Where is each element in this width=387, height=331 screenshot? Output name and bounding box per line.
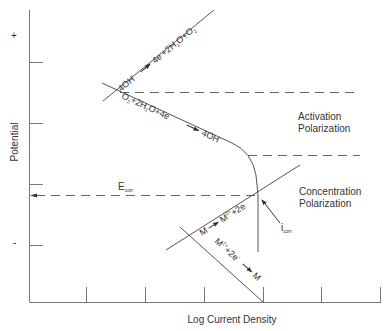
svg-text:O2+2H2O+4e-: O2+2H2O+4e- xyxy=(120,90,174,123)
e-corr-arrowhead xyxy=(30,194,37,198)
i-corr-label: icorr xyxy=(281,222,292,234)
oxygen-cathodic-reaction: O2+2H2O+4e- 4OH- xyxy=(120,90,224,146)
svg-text:4OH-: 4OH- xyxy=(200,127,223,146)
x-axis-label: Log Current Density xyxy=(188,314,277,325)
concentration-polarization-label: Concentration Polarization xyxy=(299,186,364,209)
e-corr-label: Ecorr xyxy=(118,181,134,193)
svg-text:M: M xyxy=(251,270,263,282)
y-minus-label: - xyxy=(13,237,16,248)
svg-text:M2++2e-: M2++2e- xyxy=(213,235,243,264)
activation-polarization-label: Activation Polarization xyxy=(298,111,350,134)
oxygen-cathodic-curve xyxy=(102,83,258,252)
y-plus-label: + xyxy=(11,30,17,41)
svg-text:M: M xyxy=(198,225,210,237)
svg-text:4e-+2H2O+O2: 4e-+2H2O+O2 xyxy=(149,23,198,66)
i-corr-pointer xyxy=(262,200,280,223)
axes xyxy=(29,10,381,303)
evans-diagram: + - Potential Log Current Density 4OH- 4… xyxy=(0,0,387,331)
y-axis-label: Potential xyxy=(9,123,20,162)
oxygen-anodic-reaction: 4OH- 4e-+2H2O+O2 xyxy=(115,23,198,94)
metal-anodic-reaction: M M2++2e xyxy=(197,200,247,237)
svg-text:M2++2e: M2++2e xyxy=(217,200,247,225)
metal-cathodic-reaction: M2++2e- M xyxy=(213,235,264,282)
